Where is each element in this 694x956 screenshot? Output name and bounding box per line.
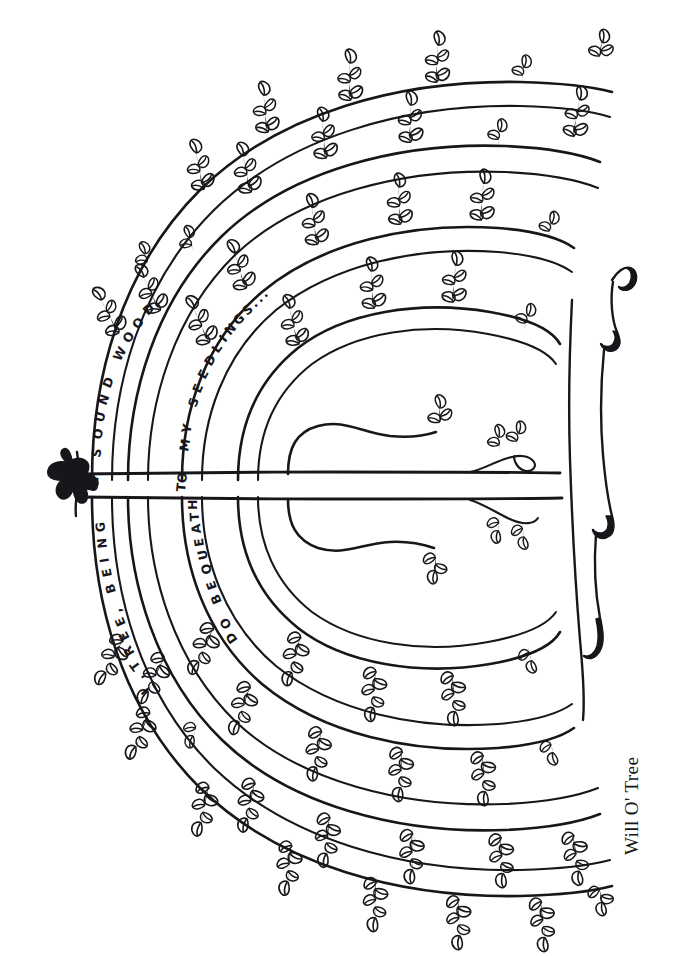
tree-illustration: S O U N D W O O D OF I , T R E E , B E I… [0, 0, 694, 956]
arc-letter: A [188, 523, 204, 535]
arc-letter-group: TO [173, 472, 190, 493]
inscription-of: OF [85, 472, 102, 493]
inscription-to: TO [173, 472, 190, 493]
arc-letter: N [94, 537, 110, 549]
arc-letter: G [92, 522, 108, 533]
arc-letter-group: OF [85, 472, 102, 493]
paper-background [0, 0, 694, 956]
artwork-canvas: S O U N D W O O D OF I , T R E E , B E I… [0, 0, 694, 956]
arc-letter: H [185, 500, 200, 510]
arc-letter: T [187, 512, 202, 522]
arc-letter: M [176, 438, 193, 453]
artwork-caption: Will O' Tree [621, 757, 642, 855]
